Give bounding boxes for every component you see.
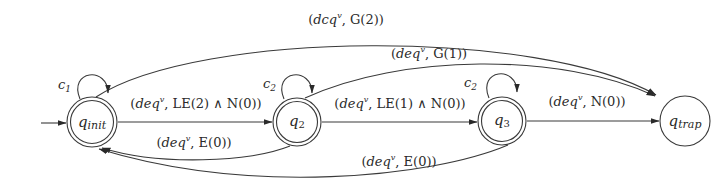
edge-q3-to-qtrap: (deqv, N(0)) <box>527 93 659 121</box>
edge-qinit-to-q2: (deqv, LE(2) ∧ N(0)) <box>118 95 272 122</box>
self-loop-label-q2: c2 <box>263 76 276 93</box>
edge-label-q2-qinit: (deqv, E(0)) <box>156 134 231 150</box>
edge-q2-to-qtrap: (deqv, G(1)) <box>305 45 655 98</box>
edge-label-qinit-q2: (deqv, LE(2) ∧ N(0)) <box>130 95 261 111</box>
self-loop-qinit: c1 <box>58 75 108 99</box>
edge-label-qinit-qtrap: (dcqv, G(2)) <box>308 11 384 27</box>
state-qinit: qinit <box>67 97 117 147</box>
edge-label-q3-qinit: (deqv, E(0)) <box>361 153 436 169</box>
self-loop-label-q3: c2 <box>464 75 477 92</box>
automaton-diagram: (deqv, LE(2) ∧ N(0)) (deqv, LE(1) ∧ N(0)… <box>0 0 722 195</box>
self-loop-q3: c2 <box>464 74 517 98</box>
edge-q2-to-qinit: (deqv, E(0)) <box>102 134 290 160</box>
state-qtrap: qtrap <box>660 96 710 146</box>
edge-label-q2-q3: (deqv, LE(1) ∧ N(0)) <box>334 95 465 111</box>
edge-q2-to-q3: (deqv, LE(1) ∧ N(0)) <box>322 95 477 122</box>
state-q3: q3 <box>478 97 526 145</box>
edge-qinit-to-qtrap: (dcqv, G(2)) <box>96 11 656 97</box>
edge-label-q3-qtrap: (deqv, N(0)) <box>548 93 625 109</box>
self-loop-q2: c2 <box>263 75 312 99</box>
self-loop-label-qinit: c1 <box>58 77 71 94</box>
state-q2: q2 <box>273 98 321 146</box>
